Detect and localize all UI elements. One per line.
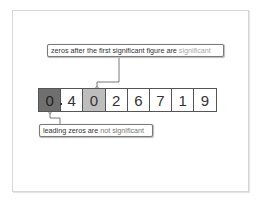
digit-cell: 4: [60, 88, 83, 112]
top-annotation-text: zeros after the first significant figure…: [51, 46, 179, 55]
digit-cell: 6: [127, 88, 150, 112]
digit-row: 0 4 0 2 6 7 1 9: [38, 88, 217, 112]
decimal-point: [60, 103, 62, 105]
bottom-annotation-text: leading zeros are: [43, 126, 100, 135]
top-connector: [97, 57, 119, 88]
digit-cell: 2: [105, 88, 128, 112]
digit-cell: 9: [193, 88, 216, 112]
digit-cell-leading-zero: 0: [38, 88, 61, 112]
digit-cell-significant-zero: 0: [82, 88, 105, 112]
bottom-connector: [50, 112, 60, 124]
bottom-annotation-label: leading zeros are not significant: [39, 124, 153, 137]
bottom-annotation-highlight: not significant: [100, 126, 144, 135]
digit-cell: 1: [171, 88, 194, 112]
digit-cell: 7: [149, 88, 172, 112]
top-annotation-label: zeros after the first significant figure…: [47, 44, 224, 57]
top-annotation-highlight: significant: [179, 46, 211, 55]
